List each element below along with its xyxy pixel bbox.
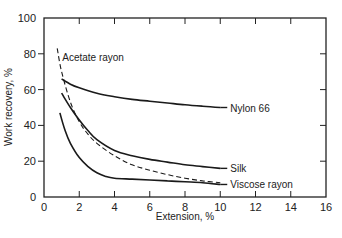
series-nylon-66 (62, 79, 221, 108)
label-nylon-66: Nylon 66 (230, 103, 270, 114)
x-tick-label: 10 (214, 201, 226, 213)
series-acetate-rayon (57, 48, 220, 182)
curves (57, 48, 220, 184)
work-recovery-chart: 0246810121416020406080100 Nylon 66SilkVi… (0, 0, 342, 238)
y-tick-label: 40 (24, 119, 36, 131)
x-tick-label: 6 (147, 201, 153, 213)
x-tick-label: 16 (320, 201, 332, 213)
y-tick-label: 100 (18, 12, 36, 24)
curve-labels: Nylon 66SilkViscose rayonAcetate rayon (62, 52, 293, 190)
x-axis-title: Extension, % (156, 211, 214, 222)
label-acetate-rayon: Acetate rayon (62, 52, 124, 63)
x-tick-label: 12 (249, 201, 261, 213)
x-tick-label: 4 (111, 201, 117, 213)
x-tick-label: 2 (76, 201, 82, 213)
y-axis-title: Work recovery, % (3, 68, 14, 146)
y-tick-label: 0 (30, 191, 36, 203)
y-tick-label: 60 (24, 84, 36, 96)
y-tick-label: 20 (24, 155, 36, 167)
label-silk: Silk (230, 163, 247, 174)
x-tick-label: 0 (41, 201, 47, 213)
plot-frame (44, 18, 326, 197)
axes (44, 18, 326, 197)
series-viscose-rayon (60, 113, 220, 185)
y-tick-label: 80 (24, 48, 36, 60)
series-silk (62, 93, 221, 168)
label-viscose-rayon: Viscose rayon (230, 179, 293, 190)
x-tick-label: 14 (285, 201, 297, 213)
